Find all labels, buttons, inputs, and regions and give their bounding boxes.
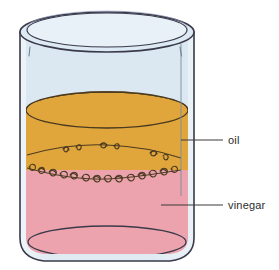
label-oil: oil	[228, 135, 240, 146]
label-vinegar: vinegar	[228, 200, 265, 211]
beaker-rim-inner	[27, 13, 187, 47]
diagram-root: oil vinegar	[0, 0, 279, 270]
beaker-rim-group	[20, 11, 194, 52]
liquid-layers-group	[20, 30, 194, 265]
layer-vinegar-body	[20, 170, 194, 265]
